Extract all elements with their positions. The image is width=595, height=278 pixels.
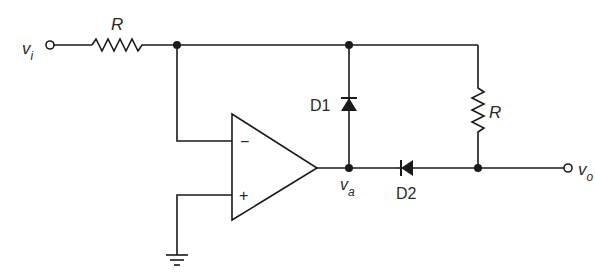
- input-resistor-label: R: [111, 15, 123, 34]
- opamp-symbol: [232, 114, 317, 220]
- opamp-noninverting-label: +: [239, 187, 248, 204]
- junction-node: [474, 164, 482, 172]
- diode-d1-icon: [341, 98, 357, 111]
- diode-d2-label: D2: [396, 185, 417, 202]
- opamp-output-voltage-label: va: [340, 176, 355, 199]
- input-terminal: [46, 41, 54, 49]
- output-voltage-label: vo: [578, 160, 594, 184]
- input-voltage-label: vi: [22, 39, 34, 63]
- feedback-resistor-label: R: [489, 103, 501, 122]
- feedback-resistor: [472, 45, 484, 168]
- input-resistor: [92, 39, 145, 51]
- diode-d1-label: D1: [310, 97, 331, 114]
- opamp-inverting-label: −: [240, 133, 249, 150]
- ground-icon: [166, 255, 188, 265]
- diode-d2-icon: [401, 160, 413, 176]
- circuit-diagram: vi R − + va D1 D2 R vo: [0, 0, 595, 278]
- output-terminal: [564, 164, 572, 172]
